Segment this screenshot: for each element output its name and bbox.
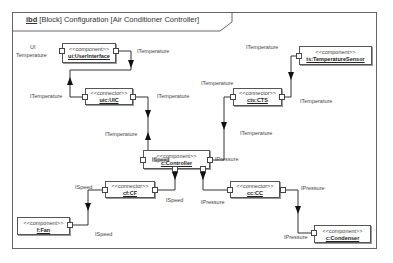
cc-out-label: IPressure: [301, 185, 325, 192]
ts-out-label: ITemperature: [246, 44, 278, 51]
port-fan-in[interactable]: [67, 222, 73, 228]
port-controller-pressure[interactable]: [200, 166, 206, 172]
stereotype-label: <<connector>>: [231, 183, 279, 190]
block-cc[interactable]: <<connector>> cc:CC: [230, 181, 280, 198]
block-name: cf:CF: [106, 190, 154, 197]
ui-out-label: ITemperature: [137, 48, 169, 55]
cts-out-label: ITemperature: [300, 98, 332, 105]
stereotype-label: <<connector>>: [86, 90, 132, 97]
condenser-in-label: IPressure: [284, 234, 308, 241]
block-name: cc:CC: [231, 190, 279, 197]
diagram-title-text: [Block] Configuration [Air Conditioner C…: [37, 15, 199, 24]
block-cts[interactable]: <<connector>> cts:CTS: [233, 88, 282, 106]
stereotype-label: <<component>>: [18, 220, 69, 227]
ctrl-in-left-label: ITemperature: [105, 131, 137, 138]
port-cts-in[interactable]: [230, 94, 236, 100]
block-fan[interactable]: <<component>> f:Fan: [17, 217, 70, 235]
block-name: c:Condenser: [315, 235, 370, 242]
uic-in-label: ITemperature: [30, 93, 62, 100]
block-name: ts:TemperatureSensor: [300, 56, 371, 63]
port-controller-speed[interactable]: [172, 166, 178, 172]
fan-in-label: ISpeed: [95, 231, 112, 238]
block-name: ui:UserInterface: [63, 53, 115, 60]
port-cf-out[interactable]: [152, 187, 158, 193]
cts-in-label: ITemperature: [201, 80, 233, 87]
port-uic-out[interactable]: [130, 94, 136, 100]
block-condenser[interactable]: <<component>> c:Condenser: [314, 225, 371, 243]
port-controller-temp-right[interactable]: [207, 157, 213, 163]
port-cc-out[interactable]: [280, 187, 286, 193]
block-cf[interactable]: <<connector>> cf:CF: [105, 181, 155, 198]
port-ui-out[interactable]: [113, 48, 119, 54]
stereotype-label: <<component>>: [300, 49, 371, 56]
port-cc-in[interactable]: [227, 187, 233, 193]
diagram-kind: ibd: [26, 15, 37, 24]
cf-in-label: ISpeed: [75, 184, 92, 191]
stereotype-label: <<component>>: [63, 46, 115, 53]
stereotype-label: <<connector>>: [106, 183, 154, 190]
port-cts-out[interactable]: [279, 94, 285, 100]
stereotype-label: <<connector>>: [234, 90, 281, 97]
diagram-title: ibd [Block] Configuration [Air Condition…: [26, 15, 199, 24]
cf-out-label: ISpeed: [166, 197, 183, 204]
port-condenser-in[interactable]: [311, 230, 317, 236]
port-ts-out[interactable]: [296, 53, 302, 59]
ctrl-in-right-label: ITemperature: [240, 130, 272, 137]
block-name: cts:CTS: [234, 97, 281, 104]
stereotype-label: <<component>>: [315, 228, 370, 235]
block-temperature-sensor[interactable]: <<component>> ts:TemperatureSensor: [299, 46, 372, 65]
cc-in-label: IPressure: [201, 199, 225, 206]
port-ui-in[interactable]: [59, 48, 65, 54]
ui-label-line2: Temperature: [16, 52, 47, 59]
speed-label-controller: ISpeed: [152, 157, 169, 164]
block-name: f:Fan: [18, 227, 69, 234]
ui-label-line1: UI: [30, 44, 36, 51]
block-name: uic:UIC: [86, 97, 132, 104]
port-controller-temp-left[interactable]: [140, 157, 146, 163]
block-user-interface[interactable]: <<component>> ui:UserInterface: [62, 43, 116, 63]
pressure-label-controller: IPressure: [215, 156, 239, 163]
port-cf-in[interactable]: [102, 187, 108, 193]
block-uic[interactable]: <<connector>> uic:UIC: [85, 88, 133, 105]
port-uic-in[interactable]: [82, 94, 88, 100]
uic-out-label: ITemperature: [157, 93, 189, 100]
